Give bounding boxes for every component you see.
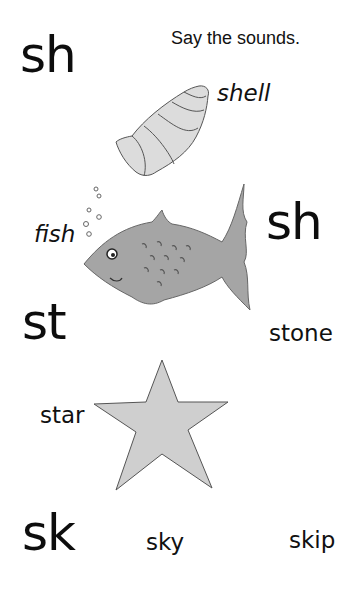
- digraph-st: st: [22, 297, 66, 347]
- word-stone: stone: [269, 322, 333, 345]
- word-star: star: [40, 404, 85, 427]
- star-illustration: [92, 358, 232, 493]
- word-fish: fish: [34, 223, 75, 246]
- shell-illustration: [114, 82, 214, 182]
- instruction-text: Say the sounds.: [171, 29, 300, 47]
- digraph-sh-top: sh: [20, 30, 76, 80]
- word-shell: shell: [217, 82, 271, 105]
- fish-illustration: [82, 182, 252, 312]
- digraph-sh-right: sh: [266, 197, 322, 247]
- digraph-sk: sk: [22, 508, 75, 558]
- word-skip: skip: [289, 529, 335, 552]
- word-sky: sky: [146, 531, 184, 554]
